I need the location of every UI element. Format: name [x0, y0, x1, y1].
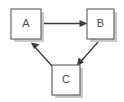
node-c[interactable]: C	[52, 65, 83, 98]
edge-b-to-c[interactable]	[77, 42, 98, 66]
edge-a-to-b-arrowhead	[80, 20, 88, 27]
node-b-label: B	[97, 17, 104, 29]
node-b[interactable]: B	[87, 9, 117, 42]
node-a[interactable]: A	[11, 9, 44, 42]
edge-b-to-c-line	[80, 42, 99, 63]
edge-c-to-a[interactable]	[31, 43, 53, 67]
edge-c-to-a-line	[34, 46, 53, 67]
edge-c-to-a-arrowhead	[31, 43, 40, 50]
diagram-svg: A B C	[0, 0, 124, 102]
node-a-label: A	[22, 17, 30, 29]
diagram-canvas: A B C	[0, 0, 124, 102]
edge-a-to-b[interactable]	[42, 20, 88, 27]
node-c-label: C	[62, 73, 70, 85]
